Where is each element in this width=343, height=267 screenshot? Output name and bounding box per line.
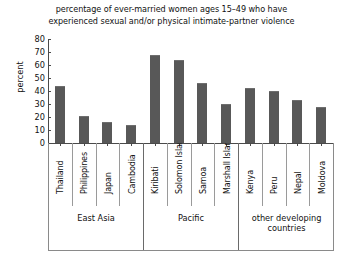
bar xyxy=(102,122,112,143)
y-axis-tick-label: 40 xyxy=(35,86,48,96)
country-label: Samoa xyxy=(198,167,207,194)
group-label-row: East AsiaPacificother developingcountrie… xyxy=(49,206,333,250)
group-label-line: other developing xyxy=(252,213,322,223)
y-axis: 80706050403020100 xyxy=(30,36,48,144)
group-label-cell: Pacific xyxy=(144,206,239,250)
y-axis-tick: 40 xyxy=(35,86,48,96)
bar-slot xyxy=(309,39,333,143)
country-label-cell: Solomon Islands xyxy=(168,143,192,206)
bar-slot xyxy=(286,39,310,143)
y-axis-tick-label: 50 xyxy=(35,73,48,83)
y-axis-tick-label: 60 xyxy=(35,60,48,70)
country-label-cell: Samoa xyxy=(192,143,216,206)
bar xyxy=(269,91,279,143)
bar xyxy=(174,60,184,143)
chart-title-line-2: experienced sexual and/or physical intim… xyxy=(0,16,343,28)
bar-slot xyxy=(167,39,191,143)
y-axis-tick-label: 30 xyxy=(35,99,48,109)
group-label-line: countries xyxy=(252,223,322,233)
bar xyxy=(292,100,302,143)
country-label-cell: Thailand xyxy=(49,143,73,206)
y-axis-tick: 20 xyxy=(35,112,48,122)
country-label-cell: Peru xyxy=(263,143,287,206)
country-label: Thailand xyxy=(56,160,65,194)
chart-title-line-1: percentage of ever-married women ages 15… xyxy=(0,4,343,16)
country-label: Solomon Islands xyxy=(175,143,184,194)
group-label: Pacific xyxy=(178,213,204,223)
bar-slot xyxy=(238,39,262,143)
bar xyxy=(150,55,160,143)
y-axis-tick: 10 xyxy=(35,125,48,135)
group-label-cell: other developingcountries xyxy=(239,206,334,250)
country-label: Cambodia xyxy=(127,154,136,194)
country-label: Moldova xyxy=(318,161,327,194)
country-label-cell: Cambodia xyxy=(120,143,144,206)
country-label: Peru xyxy=(270,177,279,194)
bar-slot xyxy=(214,39,238,143)
bar-slot xyxy=(72,39,96,143)
bar-slot xyxy=(119,39,143,143)
bars-layer xyxy=(48,39,333,143)
country-label: Kiribati xyxy=(151,166,160,194)
group-label: East Asia xyxy=(77,213,114,223)
country-label-cell: Moldova xyxy=(310,143,334,206)
bar xyxy=(245,88,255,143)
y-axis-title: percent xyxy=(15,47,25,107)
country-label: Philippines xyxy=(80,152,89,194)
bar-slot xyxy=(48,39,72,143)
country-label-cell: Kiribati xyxy=(144,143,168,206)
group-label-line: Pacific xyxy=(178,213,204,223)
category-label-table: ThailandPhilippinesJapanCambodiaKiribati… xyxy=(48,143,334,251)
bar xyxy=(55,86,65,143)
y-axis-tick-label: 70 xyxy=(35,47,48,57)
country-label: Nepal xyxy=(293,171,302,194)
bar xyxy=(126,125,136,143)
bar-slot xyxy=(96,39,120,143)
bar xyxy=(79,116,89,143)
country-label-cell: Philippines xyxy=(73,143,97,206)
y-axis-tick: 0 xyxy=(40,138,48,148)
bar xyxy=(197,83,207,143)
y-axis-tick: 30 xyxy=(35,99,48,109)
bar-slot xyxy=(143,39,167,143)
country-label-cell: Nepal xyxy=(287,143,311,206)
y-axis-tick-label: 20 xyxy=(35,112,48,122)
y-axis-tick-label: 10 xyxy=(35,125,48,135)
group-label-cell: East Asia xyxy=(49,206,144,250)
country-label-cell: Japan xyxy=(97,143,121,206)
country-label: Japan xyxy=(103,172,112,194)
country-label-cell: Kenya xyxy=(239,143,263,206)
bar-slot xyxy=(191,39,215,143)
plot-area xyxy=(48,39,333,143)
chart-title: percentage of ever-married women ages 15… xyxy=(0,4,343,27)
bar xyxy=(221,104,231,143)
group-label-line: East Asia xyxy=(77,213,114,223)
y-axis-tick: 70 xyxy=(35,47,48,57)
y-axis-tick-label: 0 xyxy=(40,138,48,148)
y-axis-tick: 50 xyxy=(35,73,48,83)
country-label: Marshall Islands xyxy=(222,143,231,194)
group-label: other developingcountries xyxy=(252,213,322,233)
bar-slot xyxy=(262,39,286,143)
bar xyxy=(316,107,326,143)
y-axis-tick-label: 80 xyxy=(35,34,48,44)
country-label: Kenya xyxy=(246,170,255,194)
country-label-cell: Marshall Islands xyxy=(215,143,239,206)
y-axis-tick: 60 xyxy=(35,60,48,70)
bar-chart: percentage of ever-married women ages 15… xyxy=(0,0,343,267)
y-axis-tick: 80 xyxy=(35,34,48,44)
country-label-row: ThailandPhilippinesJapanCambodiaKiribati… xyxy=(49,143,333,206)
